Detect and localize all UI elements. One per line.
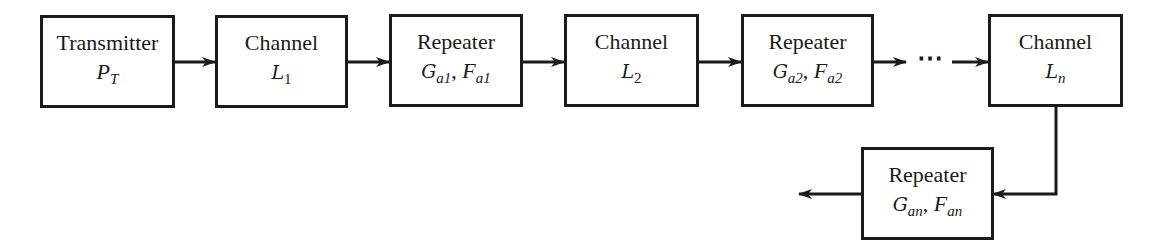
arrow-channel-n-to-repeater-n bbox=[993, 106, 1056, 194]
repeater-1-label: Repeater bbox=[417, 29, 495, 55]
channel-1-label: Channel bbox=[245, 30, 318, 56]
transmitter-label: Transmitter bbox=[57, 30, 159, 56]
transmit-power-symbol: PT bbox=[97, 58, 119, 93]
repeater-2-params: Ga2, Fa2 bbox=[773, 57, 843, 92]
repeater-2-block: Repeater Ga2, Fa2 bbox=[741, 14, 874, 107]
channel-n-label: Channel bbox=[1019, 29, 1092, 55]
channel-1-block: Channel L1 bbox=[215, 15, 348, 108]
repeater-n-params: Gan, Fan bbox=[893, 190, 963, 225]
repeater-1-params: Ga1, Fa1 bbox=[421, 57, 491, 92]
repeater-n-label: Repeater bbox=[888, 162, 966, 188]
channel-2-label: Channel bbox=[595, 29, 668, 55]
channel-1-loss-symbol: L1 bbox=[271, 58, 291, 93]
repeater-n-block: Repeater Gan, Fan bbox=[861, 147, 994, 240]
channel-n-loss-symbol: Ln bbox=[1045, 57, 1065, 92]
ellipsis: ⋯ bbox=[912, 44, 948, 74]
channel-2-block: Channel L2 bbox=[564, 14, 699, 107]
repeater-1-block: Repeater Ga1, Fa1 bbox=[389, 14, 523, 107]
channel-n-block: Channel Ln bbox=[988, 14, 1123, 107]
transmitter-block: Transmitter PT bbox=[40, 15, 175, 108]
repeater-2-label: Repeater bbox=[768, 29, 846, 55]
channel-2-loss-symbol: L2 bbox=[621, 57, 641, 92]
